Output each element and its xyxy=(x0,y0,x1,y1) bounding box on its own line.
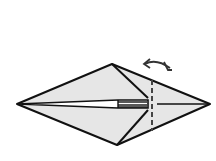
origami-figure xyxy=(0,0,216,161)
origami-diagram: Kite-shaped folded paper with valley fol… xyxy=(0,0,216,161)
